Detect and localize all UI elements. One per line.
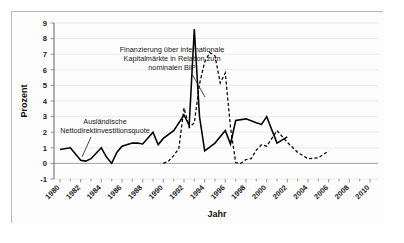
chart-figure: 9 8 7 6 5 4 3 2 1 0 -1 Prozent [0, 0, 404, 243]
y-tick-label: 2 [43, 128, 47, 137]
chart-frame: 9 8 7 6 5 4 3 2 1 0 -1 Prozent [11, 11, 383, 223]
y-tick-label: 6 [43, 66, 47, 75]
y-tick-label: 9 [43, 19, 47, 28]
annotation-line: Finanzierung über internationale [120, 45, 225, 54]
y-tick-label: 0 [43, 159, 47, 168]
y-axis-title: Prozent [19, 84, 29, 117]
annotation-line: Kapitalmärkte in Relation zum [124, 54, 221, 63]
y-tick-label: -1 [40, 175, 48, 184]
annotation-line: Ausländische [83, 117, 126, 126]
y-tick-label: 8 [43, 34, 47, 43]
annotation-line: Nettodirektinvestitionsquote [60, 126, 150, 135]
y-tick-label: 3 [43, 112, 47, 121]
line-chart-plot: 9 8 7 6 5 4 3 2 1 0 -1 Prozent [12, 12, 384, 224]
annotation-line: nominalen BIP [148, 63, 196, 72]
y-tick-label: 7 [43, 50, 47, 59]
x-axis-title: Jahr [207, 209, 227, 219]
